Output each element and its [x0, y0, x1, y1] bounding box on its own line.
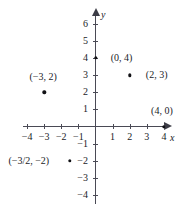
data-point-label: (−3, 2) [30, 72, 57, 82]
y-tick-mark [93, 178, 98, 179]
y-tick-mark [93, 144, 98, 145]
y-tick-mark [93, 24, 98, 25]
data-point-label: (0, 4) [111, 53, 133, 63]
data-point [94, 56, 97, 59]
y-tick-label: 5 [66, 36, 88, 46]
x-axis-label: x [170, 133, 174, 143]
data-point-label: (−3/2, −2) [8, 156, 49, 166]
x-tick-label: 4 [161, 132, 166, 142]
y-tick-mark [93, 41, 98, 42]
x-tick-mark [130, 124, 131, 129]
x-tick-label: −3 [39, 132, 50, 142]
data-point [42, 91, 45, 94]
x-tick-label: 3 [144, 132, 149, 142]
y-tick-label: 3 [66, 70, 88, 80]
y-tick-label: −1 [66, 139, 88, 149]
x-tick-mark [27, 124, 28, 129]
y-axis-label: y [101, 10, 105, 20]
x-tick-mark [78, 124, 79, 129]
data-point [128, 73, 131, 76]
y-tick-label: 2 [66, 87, 88, 97]
x-tick-label: 1 [110, 132, 115, 142]
x-tick-label: 2 [127, 132, 132, 142]
coordinate-plane: x y −4−3−2−11234654321−1−2−3−4 (0, 4)(2,… [0, 0, 186, 211]
y-axis-arrow-icon [92, 8, 100, 16]
y-tick-label: 6 [66, 19, 88, 29]
data-point-label: (2, 3) [146, 70, 168, 80]
y-tick-mark [93, 75, 98, 76]
x-tick-label: −4 [22, 132, 33, 142]
y-tick-label: −3 [66, 173, 88, 183]
y-tick-mark [93, 161, 98, 162]
x-tick-mark [147, 124, 148, 129]
y-tick-mark [93, 92, 98, 93]
y-tick-mark [93, 195, 98, 196]
data-point-label: (4, 0) [151, 106, 173, 116]
y-tick-label: 4 [66, 53, 88, 63]
y-tick-label: 1 [66, 104, 88, 114]
x-tick-mark [44, 124, 45, 129]
y-tick-mark [93, 109, 98, 110]
x-tick-mark [61, 124, 62, 129]
y-tick-label: −4 [66, 190, 88, 200]
x-tick-mark [113, 124, 114, 129]
